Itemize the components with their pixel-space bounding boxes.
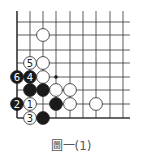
move-number: 5	[27, 58, 33, 69]
black-stone	[37, 112, 50, 125]
move-number: 2	[14, 99, 20, 110]
black-stone	[37, 84, 50, 97]
white-stone	[64, 84, 77, 97]
white-stone	[64, 98, 77, 111]
black-stone	[50, 98, 63, 111]
diagram-caption: 圖一(1)	[0, 136, 142, 153]
move-number: 3	[27, 113, 33, 124]
black-stone-move-4: 4	[24, 71, 37, 84]
white-stone-move-3: 3	[24, 112, 37, 125]
move-number: 4	[27, 72, 33, 83]
black-stone	[24, 84, 37, 97]
white-stone-move-5: 5	[24, 57, 37, 70]
black-stone-move-2: 2	[11, 98, 24, 111]
white-stone-move-1: 1	[24, 98, 37, 111]
go-board-diagram: 564213	[0, 0, 142, 132]
white-stone	[37, 71, 50, 84]
white-stone	[50, 84, 63, 97]
move-number: 1	[27, 99, 33, 110]
board-markers	[54, 75, 58, 79]
black-stone-move-6: 6	[11, 71, 24, 84]
move-number: 6	[14, 72, 20, 83]
white-stone	[37, 57, 50, 70]
star-point-marker	[54, 75, 58, 79]
white-stone	[90, 98, 103, 111]
white-stone	[37, 29, 50, 42]
